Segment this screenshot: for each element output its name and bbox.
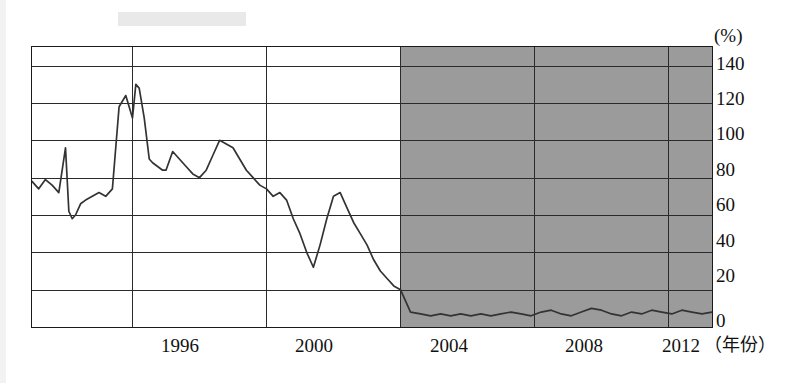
x-tick-label: 1996 [140,336,220,355]
y-tick-label: 20 [716,266,760,285]
y-tick-label: 100 [716,124,760,143]
y-tick-label: 140 [716,54,760,73]
x-tick-label: 2000 [274,336,354,355]
x-tick-label: 2004 [409,336,489,355]
y-tick-label: 40 [716,231,760,250]
y-tick-label: 80 [716,160,760,179]
y-axis-unit-label: (%) [714,26,742,45]
y-tick-label: 120 [716,89,760,108]
y-tick-label: 0 [716,311,760,330]
chart-container: (%) 140 120 100 80 60 40 20 0 1996 2000 … [0,0,793,383]
plot-area [31,46,713,328]
x-tick-label: 2008 [544,336,624,355]
y-tick-label: 60 [716,195,760,214]
scan-edge-artifact [0,0,6,383]
series-line-1 [32,47,712,327]
scan-smudge-artifact [118,12,246,26]
x-axis-unit-label: （年份） [704,336,776,354]
